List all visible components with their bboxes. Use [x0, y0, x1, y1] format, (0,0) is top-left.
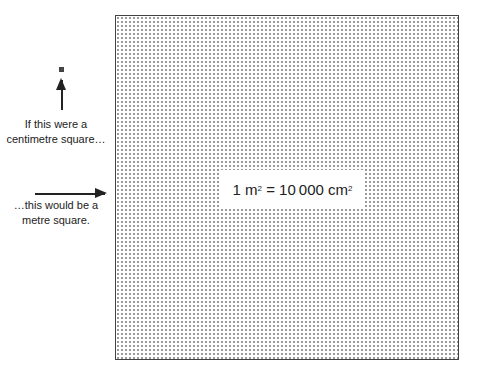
- equation-lhs-number: 1: [233, 181, 241, 198]
- arrow-right-icon: [95, 188, 107, 198]
- equation-rhs-number: 10 000: [279, 181, 324, 198]
- metre-caption-line2: metre square.: [0, 213, 112, 228]
- centimetre-caption: If this were a centimetre square…: [0, 117, 112, 147]
- centimetre-caption-line1: If this were a: [0, 117, 112, 132]
- equation-label: 1 m2 = 10 000 cm2: [220, 170, 365, 208]
- equation-equals: =: [266, 181, 275, 198]
- centimetre-square: [59, 67, 64, 72]
- metre-caption: …this would be a metre square.: [0, 198, 112, 228]
- centimetre-caption-line2: centimetre square…: [0, 132, 112, 147]
- equation-lhs-exponent: 2: [258, 184, 262, 193]
- equation-rhs-unit: cm: [328, 181, 348, 198]
- metre-caption-line1: …this would be a: [0, 198, 112, 213]
- equation-lhs-unit: m: [245, 181, 258, 198]
- arrow-up-shaft: [61, 80, 63, 110]
- equation-rhs-exponent: 2: [348, 184, 352, 193]
